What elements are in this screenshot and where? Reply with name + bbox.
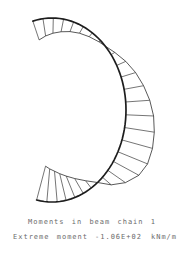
diagram-title: Moments in beam chain 1: [0, 218, 184, 226]
moment-diagram: [0, 0, 184, 212]
moment-diagram-svg: [0, 0, 184, 212]
extreme-moment-line: Extreme moment -1.06E+02 kNm/m: [0, 233, 184, 241]
extreme-moment-unit: kNm/m: [151, 233, 177, 241]
extreme-moment-value: -1.06E+02: [95, 233, 142, 241]
extreme-moment-label: Extreme moment: [13, 233, 88, 241]
